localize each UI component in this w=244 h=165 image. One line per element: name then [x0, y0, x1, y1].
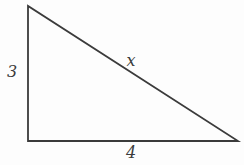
label-hypotenuse: x: [126, 51, 135, 70]
triangle-diagram: 3 x 4: [0, 0, 244, 165]
diagram-canvas: 3 x 4: [0, 0, 244, 165]
label-left-leg: 3: [7, 62, 17, 81]
label-base: 4: [125, 143, 136, 162]
